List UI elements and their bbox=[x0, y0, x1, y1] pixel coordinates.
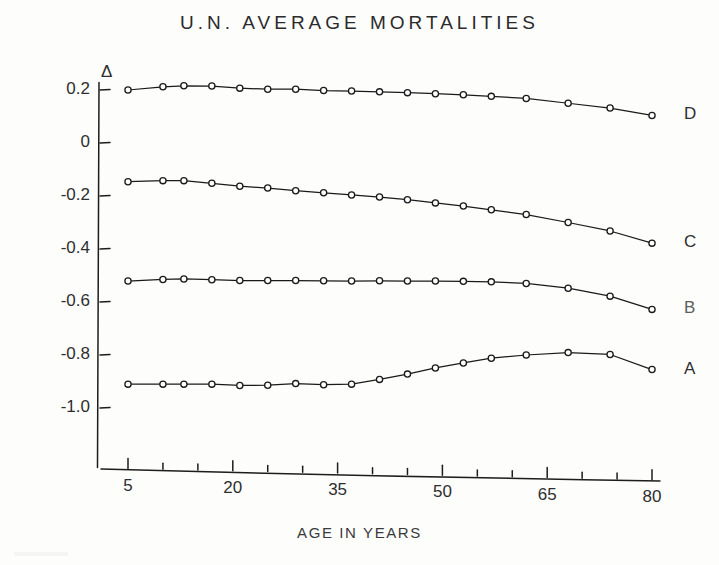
data-point-marker bbox=[293, 381, 299, 387]
y-tick-label: -0.4 bbox=[10, 238, 90, 258]
data-point-marker bbox=[565, 100, 571, 106]
data-point-marker bbox=[488, 279, 494, 285]
series-label-b: B bbox=[684, 298, 695, 318]
x-tick-label: 5 bbox=[103, 476, 153, 496]
y-tick-label: -0.6 bbox=[10, 291, 90, 311]
x-axis-title: AGE IN YEARS bbox=[0, 524, 719, 541]
y-tick-mark bbox=[100, 249, 110, 250]
data-point-marker bbox=[348, 278, 354, 284]
data-point-marker bbox=[460, 278, 466, 284]
series-line-c bbox=[128, 181, 652, 244]
data-point-marker bbox=[404, 278, 410, 284]
data-point-marker bbox=[125, 278, 131, 284]
y-tick-mark bbox=[100, 90, 110, 91]
data-point-marker bbox=[488, 93, 494, 99]
data-point-marker bbox=[376, 376, 382, 382]
data-point-marker bbox=[160, 178, 166, 184]
series-label-d: D bbox=[684, 104, 696, 124]
data-point-marker bbox=[523, 95, 529, 101]
data-point-marker bbox=[565, 219, 571, 225]
data-point-marker bbox=[209, 180, 215, 186]
data-point-marker bbox=[348, 88, 354, 94]
data-point-marker bbox=[265, 382, 271, 388]
data-point-marker bbox=[432, 365, 438, 371]
y-tick-mark bbox=[100, 302, 110, 303]
y-axis-line bbox=[98, 83, 100, 468]
data-point-marker bbox=[237, 382, 243, 388]
data-point-marker bbox=[265, 185, 271, 191]
data-point-marker bbox=[404, 90, 410, 96]
data-point-marker bbox=[181, 276, 187, 282]
data-point-marker bbox=[376, 194, 382, 200]
data-point-marker bbox=[523, 352, 529, 358]
x-tick-label: 80 bbox=[627, 487, 677, 507]
data-point-marker bbox=[321, 87, 327, 93]
data-point-marker bbox=[432, 91, 438, 97]
data-point-marker bbox=[321, 190, 327, 196]
data-point-marker bbox=[649, 306, 655, 312]
series-line-b bbox=[128, 279, 652, 309]
data-point-marker bbox=[321, 278, 327, 284]
data-point-marker bbox=[125, 179, 131, 185]
x-axis-line bbox=[101, 469, 660, 481]
y-tick-label: -1.0 bbox=[10, 397, 90, 417]
data-point-marker bbox=[523, 280, 529, 286]
data-point-marker bbox=[265, 277, 271, 283]
data-point-marker bbox=[460, 360, 466, 366]
data-point-marker bbox=[293, 277, 299, 283]
data-point-marker bbox=[237, 85, 243, 91]
series-line-d bbox=[128, 86, 652, 116]
series-label-c: C bbox=[684, 232, 696, 252]
data-point-marker bbox=[404, 197, 410, 203]
series-label-a: A bbox=[684, 359, 695, 379]
x-tick-label: 20 bbox=[208, 478, 258, 498]
y-tick-label: 0 bbox=[10, 132, 90, 152]
data-point-marker bbox=[607, 228, 613, 234]
data-point-marker bbox=[565, 350, 571, 356]
data-point-marker bbox=[181, 83, 187, 89]
data-point-marker bbox=[348, 192, 354, 198]
data-point-marker bbox=[607, 105, 613, 111]
data-point-marker bbox=[293, 86, 299, 92]
y-tick-label: -0.8 bbox=[10, 344, 90, 364]
y-tick-mark bbox=[100, 355, 110, 356]
data-point-marker bbox=[523, 211, 529, 217]
data-point-marker bbox=[209, 277, 215, 283]
series-line-a bbox=[128, 353, 652, 386]
data-point-marker bbox=[649, 366, 655, 372]
data-point-marker bbox=[607, 351, 613, 357]
data-point-marker bbox=[460, 92, 466, 98]
data-point-marker bbox=[160, 276, 166, 282]
y-tick-label: -0.2 bbox=[10, 185, 90, 205]
data-point-marker bbox=[160, 381, 166, 387]
data-point-marker bbox=[460, 203, 466, 209]
data-point-marker bbox=[321, 382, 327, 388]
chart-figure: U.N. AVERAGE MORTALITIES Δ AGE IN YEARS … bbox=[0, 0, 719, 565]
x-tick-label: 65 bbox=[522, 485, 572, 505]
x-tick-label: 50 bbox=[417, 482, 467, 502]
data-point-marker bbox=[404, 371, 410, 377]
data-point-marker bbox=[181, 178, 187, 184]
data-point-marker bbox=[125, 87, 131, 93]
data-point-marker bbox=[565, 285, 571, 291]
data-point-marker bbox=[649, 112, 655, 118]
data-point-marker bbox=[432, 278, 438, 284]
data-point-marker bbox=[607, 293, 613, 299]
data-point-marker bbox=[348, 381, 354, 387]
data-point-marker bbox=[265, 86, 271, 92]
data-point-marker bbox=[293, 188, 299, 194]
y-tick-mark bbox=[100, 408, 110, 409]
data-point-marker bbox=[376, 278, 382, 284]
y-tick-label: 0.2 bbox=[10, 79, 90, 99]
data-point-marker bbox=[237, 277, 243, 283]
data-point-marker bbox=[160, 84, 166, 90]
data-point-marker bbox=[209, 83, 215, 89]
data-point-marker bbox=[237, 183, 243, 189]
y-tick-mark bbox=[100, 143, 110, 144]
y-tick-mark bbox=[100, 196, 110, 197]
data-point-marker bbox=[649, 240, 655, 246]
data-point-marker bbox=[432, 200, 438, 206]
data-point-marker bbox=[376, 89, 382, 95]
data-point-marker bbox=[488, 207, 494, 213]
data-point-marker bbox=[488, 355, 494, 361]
